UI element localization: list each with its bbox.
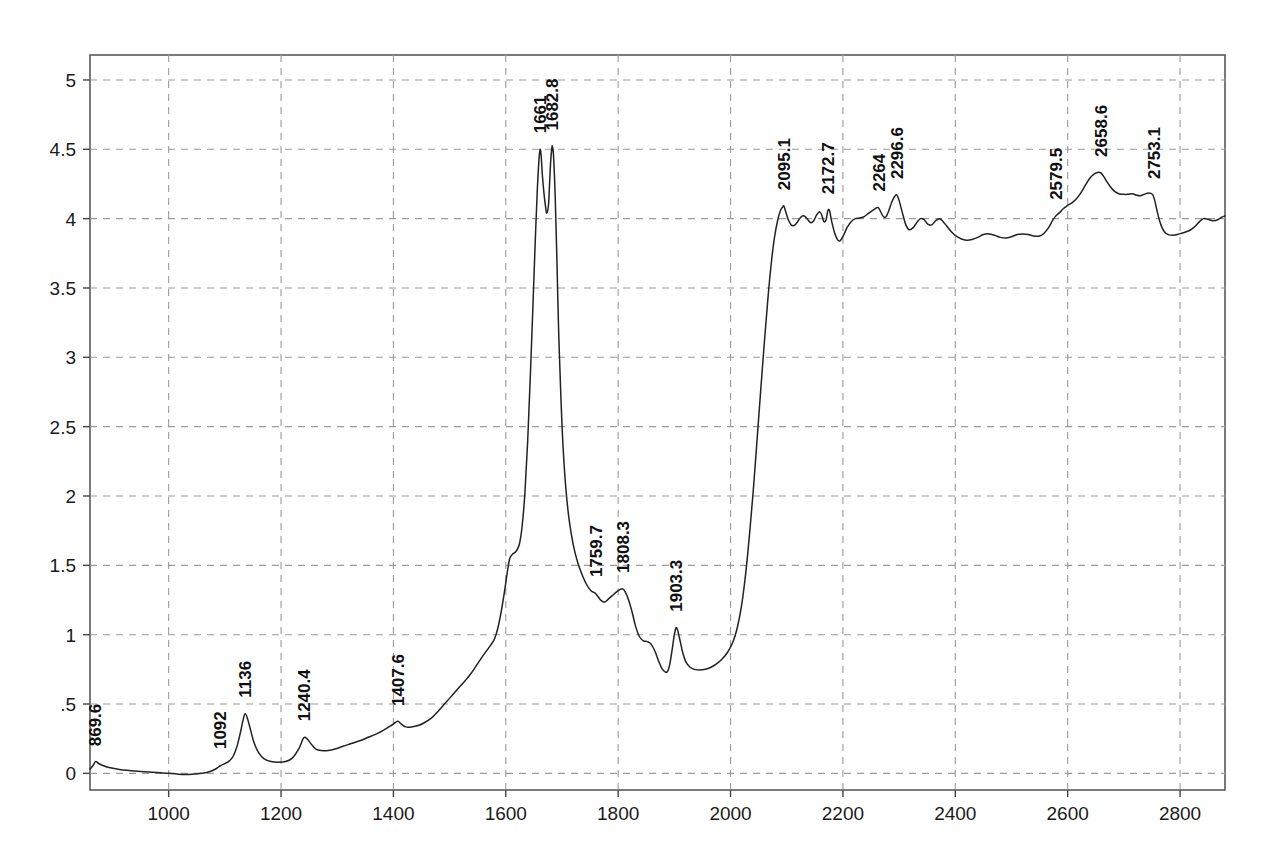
peak-label: 1240.4 [295, 669, 314, 722]
peak-label-text: 1808.3 [614, 521, 633, 573]
spectrum-chart: 0.511.522.533.544.5510001200140016001800… [0, 0, 1281, 848]
x-axis-tick-label: 2200 [822, 803, 864, 824]
peak-label-text: 2172.7 [819, 142, 838, 194]
peak-label: 2658.6 [1092, 105, 1111, 157]
peak-label-text: 1903.3 [667, 560, 686, 612]
peak-label-text: 1407.6 [389, 654, 408, 706]
x-axis-tick-label: 2600 [1047, 803, 1089, 824]
x-axis-tick-label: 1200 [260, 803, 302, 824]
y-axis-tick-label: 4.5 [50, 139, 76, 160]
peak-label-text: 2264 [870, 153, 889, 191]
peak-label-text: 1759.7 [587, 525, 606, 577]
peak-label: 2296.6 [888, 127, 907, 179]
x-axis-tick-label: 2000 [709, 803, 751, 824]
x-axis-tick-label: 1400 [372, 803, 414, 824]
peak-label: 1682.8 [543, 79, 562, 131]
x-axis-tick-label: 2800 [1159, 803, 1201, 824]
y-axis-tick-label: 1.5 [50, 555, 76, 576]
y-axis-tick-label: 2 [65, 486, 76, 507]
peak-label: 1136 [236, 661, 255, 698]
peak-label-text: 2296.6 [888, 127, 907, 179]
y-axis-tick-label: 3 [65, 347, 76, 368]
peak-label: 2579.5 [1047, 148, 1066, 200]
peak-label-text: 1136 [236, 661, 255, 698]
peak-label-text: 2753.1 [1145, 127, 1164, 179]
peak-label: 2172.7 [819, 142, 838, 194]
peak-label-text: 869.6 [86, 704, 105, 747]
peak-label-text: 2095.1 [775, 138, 794, 190]
peak-label-text: 2658.6 [1092, 105, 1111, 157]
x-axis-tick-label: 1600 [485, 803, 527, 824]
y-axis-tick-label: 4 [65, 209, 76, 230]
y-axis-tick-label: 3.5 [50, 278, 76, 299]
peak-label: 2095.1 [775, 138, 794, 190]
peak-label: 1407.6 [389, 654, 408, 706]
peak-label: 1092 [211, 711, 230, 749]
peak-label-text: 1092 [211, 711, 230, 749]
y-axis-tick-label: 5 [65, 70, 76, 91]
peak-label: 1759.7 [587, 525, 606, 577]
y-axis-tick-label: .5 [60, 694, 76, 715]
peak-label-text: 1682.8 [543, 79, 562, 131]
peak-label-text: 2579.5 [1047, 148, 1066, 200]
y-axis-tick-label: 2.5 [50, 417, 76, 438]
chart-canvas: 0.511.522.533.544.5510001200140016001800… [0, 0, 1281, 848]
peak-label: 1808.3 [614, 521, 633, 573]
peak-label: 1903.3 [667, 560, 686, 612]
x-axis-tick-label: 1800 [597, 803, 639, 824]
peak-label: 2753.1 [1145, 127, 1164, 179]
peak-label-text: 1240.4 [295, 669, 314, 722]
y-axis-tick-label: 0 [65, 763, 76, 784]
x-axis-tick-label: 1000 [148, 803, 190, 824]
peak-label: 2264 [870, 153, 889, 191]
x-axis-tick-label: 2400 [934, 803, 976, 824]
y-axis-tick-label: 1 [65, 625, 76, 646]
peak-label: 869.6 [86, 704, 105, 747]
